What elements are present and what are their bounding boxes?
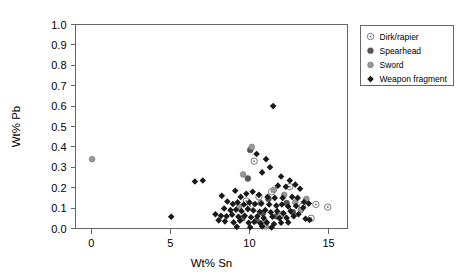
data-point [279, 174, 284, 179]
data-point [246, 207, 251, 212]
data-point [270, 214, 275, 219]
series-dirk-rapier [243, 158, 331, 222]
data-point [284, 184, 289, 189]
legend: Dirk/rapierSpearheadSwordWeapon fragment [361, 26, 454, 86]
y-tick-label: 0.7 [51, 80, 66, 92]
data-point [249, 144, 255, 150]
data-point [261, 216, 266, 221]
data-point [201, 178, 206, 183]
data-point [235, 200, 240, 205]
plot-canvas: 0.00.10.20.30.40.50.60.70.80.91.0 051015… [0, 0, 460, 278]
data-point [280, 202, 285, 207]
data-point [255, 214, 260, 219]
data-point [169, 214, 174, 219]
data-point [263, 208, 268, 213]
x-tick-label: 10 [243, 237, 255, 249]
data-point [222, 206, 227, 211]
data-point [287, 178, 292, 183]
data-point [244, 192, 249, 197]
y-tick-label: 0.5 [51, 121, 66, 133]
data-point [288, 209, 293, 214]
data-point [260, 170, 265, 175]
data-point [290, 195, 295, 200]
data-points-layer [89, 104, 331, 230]
scatter-plot-figure: 0.00.10.20.30.40.50.60.70.80.91.0 051015… [0, 0, 460, 278]
data-point [238, 195, 243, 200]
data-point [294, 204, 299, 209]
data-point [254, 152, 259, 157]
data-point [307, 218, 312, 223]
legend-item-weapon-fragment[interactable]: Weapon fragment [368, 74, 447, 84]
data-point [223, 219, 228, 224]
data-point [219, 194, 224, 199]
data-point [224, 214, 229, 219]
legend-item-label: Weapon fragment [380, 74, 448, 84]
data-point [276, 183, 281, 188]
data-point [216, 218, 221, 223]
data-point [275, 209, 280, 214]
data-point [272, 196, 277, 201]
data-point [306, 201, 311, 206]
data-point [274, 203, 279, 208]
data-point [313, 201, 319, 207]
data-point [271, 104, 276, 109]
data-point [286, 220, 291, 225]
data-point [250, 189, 255, 194]
data-point [296, 212, 301, 217]
data-point [269, 225, 274, 230]
data-point [219, 214, 224, 219]
y-tick-label: 0.9 [51, 39, 66, 51]
data-point [213, 212, 218, 217]
y-tick-label: 0.1 [51, 202, 66, 214]
data-point [267, 202, 272, 207]
data-point [264, 157, 269, 162]
data-point [245, 176, 251, 182]
data-point [242, 202, 247, 207]
y-tick-label: 0.2 [51, 182, 66, 194]
y-axis-ticks: 0.00.10.20.30.40.50.60.70.80.91.0 [51, 19, 75, 235]
data-point [230, 212, 235, 217]
legend-marker-icon [368, 77, 373, 82]
data-point [268, 165, 273, 170]
legend-marker-icon [368, 48, 374, 54]
data-point [193, 179, 198, 184]
data-point [242, 214, 247, 219]
data-point [251, 158, 257, 164]
legend-item-label: Dirk/rapier [380, 32, 419, 42]
data-point [325, 204, 331, 210]
y-tick-label: 0.0 [51, 223, 66, 235]
data-point [265, 195, 270, 200]
data-point [251, 208, 256, 213]
data-point [279, 220, 284, 225]
data-point [225, 199, 230, 204]
data-point [265, 220, 270, 225]
data-point [239, 209, 244, 214]
x-tick-label: 5 [167, 237, 173, 249]
series-weapon-fragment [169, 104, 312, 230]
data-point [257, 193, 262, 198]
y-tick-label: 0.8 [51, 59, 66, 71]
data-point [260, 224, 265, 229]
data-point [291, 214, 296, 219]
x-tick-label: 0 [88, 237, 94, 249]
legend-item-label: Sword [380, 60, 404, 70]
data-point [249, 215, 254, 220]
x-axis-ticks: 051015 [88, 229, 334, 249]
data-point [281, 211, 286, 216]
data-point [89, 156, 95, 162]
y-tick-label: 0.4 [51, 141, 66, 153]
data-point [280, 196, 285, 201]
data-point [248, 225, 253, 230]
x-axis-title: Wt% Sn [191, 257, 233, 269]
data-point [231, 220, 236, 225]
data-point [293, 182, 298, 187]
y-tick-label: 1.0 [51, 19, 66, 31]
data-point [247, 200, 252, 205]
y-tick-label: 0.6 [51, 100, 66, 112]
data-point [233, 188, 238, 193]
x-tick-label: 15 [322, 237, 334, 249]
data-point [298, 186, 303, 191]
data-point [252, 220, 257, 225]
data-point [235, 225, 240, 230]
data-point [253, 202, 258, 207]
